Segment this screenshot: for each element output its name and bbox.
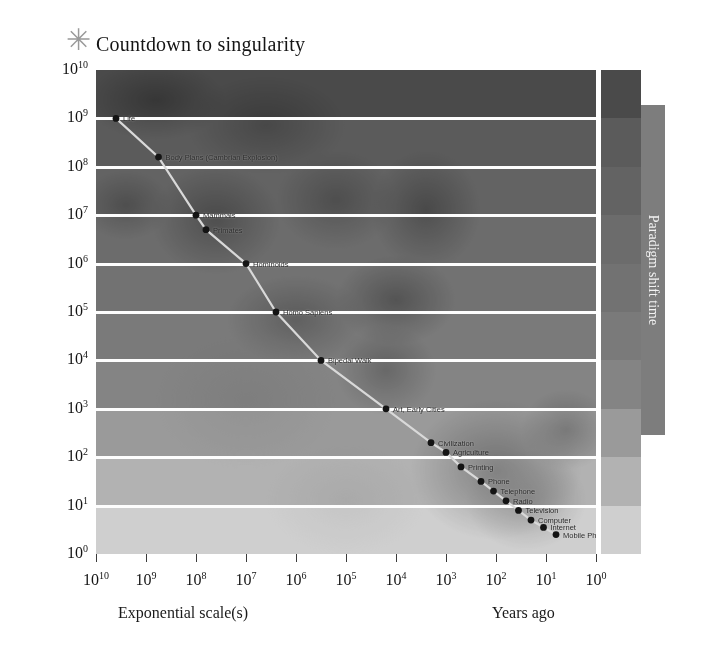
x-axis-tick-mark (96, 554, 97, 562)
data-point-label: Homo Sapiens (283, 308, 332, 317)
x-axis-tick-label: 109 (136, 570, 157, 589)
x-axis-tick-label: 102 (486, 570, 507, 589)
y-axis-tick-label: 109 (14, 107, 88, 126)
x-axis-tick-mark (546, 554, 547, 562)
data-point[interactable] (113, 115, 120, 122)
x-axis-label-right: Years ago (492, 604, 555, 622)
data-point-label: Life (123, 114, 135, 123)
x-axis-tick-mark (496, 554, 497, 562)
data-point-label: Agriculture (453, 448, 489, 457)
paradigm-shift-legend-bar (601, 70, 641, 554)
x-axis-tick-label: 103 (436, 570, 457, 589)
x-axis-tick-label: 106 (286, 570, 307, 589)
data-point-label: Hominoids (253, 260, 288, 269)
legend-color-segment (601, 360, 641, 408)
data-point-label: Mobile Phones (563, 531, 596, 540)
legend-color-segment (601, 506, 641, 554)
data-point-label: Mammals (203, 211, 236, 220)
legend-color-segment (601, 118, 641, 166)
x-axis-tick-mark (146, 554, 147, 562)
trend-line (116, 118, 556, 534)
data-point-label: Telephone (501, 487, 536, 496)
data-point[interactable] (203, 226, 210, 233)
plot-area: LifeBody Plans (Cambrian Explosion)Mamma… (96, 70, 596, 554)
y-axis-tick-label: 104 (14, 349, 88, 368)
data-point-label: Phone (488, 477, 510, 486)
data-point[interactable] (318, 357, 325, 364)
data-point-label: Bipedal Walk (328, 356, 372, 365)
data-point[interactable] (528, 517, 535, 524)
data-point[interactable] (243, 260, 250, 267)
legend-color-segment (601, 215, 641, 263)
legend-color-segment (601, 264, 641, 312)
data-point-label: Television (526, 506, 559, 515)
data-point-label: Primates (213, 226, 243, 235)
data-point[interactable] (193, 212, 200, 219)
data-point[interactable] (428, 439, 435, 446)
data-point[interactable] (515, 507, 522, 514)
x-axis-label-left: Exponential scale(s) (118, 604, 248, 622)
data-point-label: Radio (513, 497, 533, 506)
x-axis-tick-mark (296, 554, 297, 562)
chart-title: Countdown to singularity (96, 33, 305, 56)
x-axis-tick-label: 108 (186, 570, 207, 589)
y-axis-tick-label: 101 (14, 495, 88, 514)
x-axis-tick-label: 101 (536, 570, 557, 589)
x-axis-tick-mark (396, 554, 397, 562)
x-axis-tick-label: 100 (586, 570, 607, 589)
x-axis-tick-label: 105 (336, 570, 357, 589)
data-point[interactable] (490, 488, 497, 495)
y-axis-tick-label: 105 (14, 301, 88, 320)
data-series (96, 70, 596, 554)
x-axis-tick-mark (196, 554, 197, 562)
y-axis-tick-label: 106 (14, 253, 88, 272)
data-point[interactable] (458, 464, 465, 471)
x-axis-tick-mark (596, 554, 597, 562)
data-point-label: Civilization (438, 439, 474, 448)
x-axis-tick-label: 107 (236, 570, 257, 589)
data-point[interactable] (155, 154, 162, 161)
data-point[interactable] (443, 449, 450, 456)
data-point[interactable] (478, 478, 485, 485)
x-axis-tick-label: 1010 (83, 570, 109, 589)
data-point[interactable] (503, 497, 510, 504)
data-point-label: Body Plans (Cambrian Explosion) (166, 153, 278, 162)
x-axis-tick-mark (246, 554, 247, 562)
x-axis-tick-mark (346, 554, 347, 562)
x-axis-tick-label: 104 (386, 570, 407, 589)
y-axis-tick-label: 103 (14, 398, 88, 417)
x-axis-ticks: 1010109108107106105104103102101100 (0, 560, 703, 590)
data-point[interactable] (383, 405, 390, 412)
y-axis-tick-label: 108 (14, 156, 88, 175)
data-point-label: Art, Early Cities (393, 405, 445, 414)
legend-color-segment (601, 409, 641, 457)
y-axis-tick-label: 102 (14, 446, 88, 465)
legend-color-segment (601, 312, 641, 360)
legend-color-segment (601, 70, 641, 118)
legend-color-segment (601, 167, 641, 215)
data-point-label: Printing (468, 463, 493, 472)
legend-color-segment (601, 457, 641, 505)
legend-label: Paradigm shift time (641, 105, 665, 435)
y-axis-tick-label: 107 (14, 204, 88, 223)
y-axis-tick-label: 1010 (14, 59, 88, 78)
x-axis-tick-mark (446, 554, 447, 562)
data-point[interactable] (273, 309, 280, 316)
legend-label-text: Paradigm shift time (645, 215, 661, 325)
